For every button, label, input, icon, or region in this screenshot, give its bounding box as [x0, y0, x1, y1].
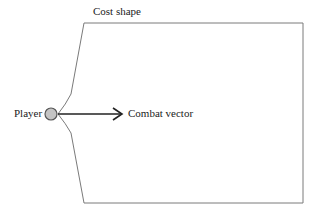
player-label: Player: [14, 108, 42, 119]
diagram-canvas: [0, 0, 319, 212]
combat-vector-label: Combat vector: [128, 108, 193, 119]
cost-shape-label: Cost shape: [93, 6, 141, 17]
player-node: [45, 108, 57, 120]
